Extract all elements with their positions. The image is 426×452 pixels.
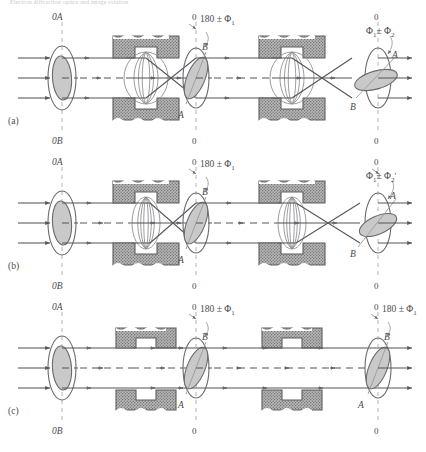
object-plane-b-top-label: 0A [52, 157, 63, 167]
incoming-rays-a [18, 58, 50, 98]
intermediate-plane-c: 0 0 B A 180 ± Φ1 [177, 302, 235, 436]
object-plane-c-top-label: 0A [52, 302, 63, 312]
intermediate-plane-a-marker-a: A [177, 110, 184, 120]
object-plane-b: 0A 0B [48, 157, 76, 291]
final-plane-c: 0 0 B A 180 ± Φ1 [357, 302, 417, 436]
final-plane-a-bottom-label: 0 [374, 136, 379, 146]
lens1-c [116, 326, 196, 413]
lens2-c [196, 326, 378, 413]
intermediate-plane-a-bottom-label: 0 [192, 136, 197, 146]
outgoing-rays-a [378, 58, 412, 98]
row-b: (b) 0A 0B [8, 157, 412, 291]
final-plane-a: 0 0 A B Φ1± Φ2 [350, 12, 400, 146]
object-plane-c: 0A 0B [48, 302, 76, 436]
incoming-rays-c [18, 348, 50, 388]
final-plane-c-top-label: 0 [374, 302, 379, 312]
final-plane-a-rotation-label: Φ1± Φ2 [366, 26, 395, 39]
object-plane-a: 0A 0B [48, 12, 76, 146]
row-label-a: (a) [8, 116, 19, 127]
final-plane-c-bottom-label: 0 [374, 426, 379, 436]
final-plane-a-marker-b: B [350, 102, 356, 112]
intermediate-plane-a: 0 0 B A 180 ± Φ1 [177, 12, 235, 146]
intermediate-plane-b-bottom-label: 0 [192, 281, 197, 291]
final-plane-c-rotation-label: 180 ± Φ1 [382, 304, 417, 317]
final-plane-c-marker-a: A [357, 400, 364, 410]
intermediate-plane-b-rotation-label: 180 ± Φ1 [200, 159, 235, 172]
outgoing-rays-b [378, 203, 412, 243]
final-plane-b: 0 0 A B Φ1± Φ2′ [350, 157, 400, 291]
rays-obj-lens1-b [62, 203, 132, 243]
figure-top-caption: Electron diffraction optics and image ro… [10, 0, 129, 5]
rays-obj-lens1-c [62, 348, 132, 388]
final-plane-b-bottom-label: 0 [374, 281, 379, 291]
object-plane-c-bottom-label: 0B [52, 426, 63, 436]
rays-inter-lens2-b [196, 203, 278, 243]
figure-electron-optics-image-rotation: Electron diffraction optics and image ro… [0, 0, 426, 452]
intermediate-plane-b: 0 0 B A 180 ± Φ1 [177, 157, 235, 291]
intermediate-plane-a-rotation-label: 180 ± Φ1 [200, 14, 235, 27]
intermediate-plane-b-marker-a: A [177, 255, 184, 265]
figure-canvas: (a) 0A 0B [0, 0, 426, 452]
intermediate-plane-c-rotation-label: 180 ± Φ1 [200, 304, 235, 317]
final-plane-b-rotation-label: Φ1± Φ2′ [366, 171, 397, 184]
row-label-b: (b) [8, 261, 19, 272]
final-plane-b-top-label: 0 [374, 157, 379, 167]
intermediate-plane-c-top-label: 0 [192, 302, 197, 312]
intermediate-plane-c-marker-a: A [177, 400, 184, 410]
row-c: (c) 0A 0B [8, 302, 417, 436]
incoming-rays-b [18, 203, 50, 243]
intermediate-plane-a-top-label: 0 [192, 12, 197, 22]
row-a: (a) 0A 0B [8, 12, 412, 146]
intermediate-plane-c-bottom-label: 0 [192, 426, 197, 436]
row-label-c: (c) [8, 406, 19, 417]
intermediate-plane-b-top-label: 0 [192, 157, 197, 167]
object-plane-b-bottom-label: 0B [52, 281, 63, 291]
final-plane-a-top-label: 0 [374, 12, 379, 22]
object-plane-a-bottom-label: 0B [52, 136, 63, 146]
object-plane-a-top-label: 0A [52, 12, 63, 22]
final-plane-b-marker-b: B [350, 249, 356, 259]
